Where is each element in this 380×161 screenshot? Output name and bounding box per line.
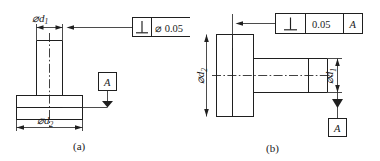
dim-b-shaft-label: ⌀d1 xyxy=(323,68,338,84)
engineering-drawing-figure: ⌀d1 ⌀d2 ⌀ 0.05 A xyxy=(0,0,380,161)
fcf-b-tolerance: 0.05 xyxy=(312,19,330,30)
leader-a-fcf xyxy=(67,25,133,30)
dim-a-top-label: ⌀d1 xyxy=(32,12,48,27)
panel-a-drawing: ⌀d1 ⌀d2 ⌀ 0.05 A xyxy=(0,0,190,161)
datum-a-letter: A xyxy=(103,77,111,88)
fcf-b-datum-ref: A xyxy=(349,19,357,30)
datum-b-letter: A xyxy=(333,123,341,134)
panel-a-caption: (a) xyxy=(73,140,86,153)
fcf-a-tolerance: ⌀ 0.05 xyxy=(155,23,183,34)
panel-b-caption: (b) xyxy=(266,142,279,155)
panel-b-drawing: 0.05 A ⌀d2 ⌀d1 A (b) xyxy=(190,0,380,161)
